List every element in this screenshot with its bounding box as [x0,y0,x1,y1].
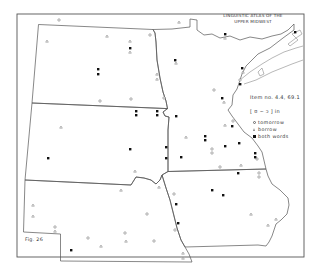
triangle-icon [250,128,258,131]
borrow-points [32,21,278,259]
legend-label: tomorrow [258,120,284,125]
legend-label: both words [258,134,289,139]
open-circle-icon [250,121,258,124]
apostle-islands [258,68,264,76]
atlas-title: LINGUISTIC ATLAS OF THE UPPER MIDWEST [213,13,293,24]
map-legend: tomorrow borrow both words [250,119,289,140]
nebraska-border [24,175,193,262]
iowa-border [162,169,289,247]
both-words-points [47,31,296,251]
filled-square-icon [250,135,258,138]
isle-royale [288,38,298,46]
figure-label: Fig. 26 [25,237,43,242]
item-number: Item no. 4.4, 69.1 [250,94,300,100]
legend-item-borrow: borrow [250,126,289,133]
legend-item-tomorrow: tomorrow [250,119,289,126]
legend-label: borrow [258,127,277,132]
south-dakota-border [25,103,169,185]
atlas-title-line-1: LINGUISTIC ATLAS OF THE [213,13,293,19]
north-dakota-border [32,25,168,109]
phonetic-label: [ ʊ ~ ɔ ] in [250,108,280,114]
tomorrow-points [54,19,260,242]
michigan-peninsula [292,30,302,38]
atlas-title-line-2: UPPER MIDWEST [213,19,293,25]
wisconsin-shore [244,60,303,84]
legend-item-both-words: both words [250,133,289,140]
